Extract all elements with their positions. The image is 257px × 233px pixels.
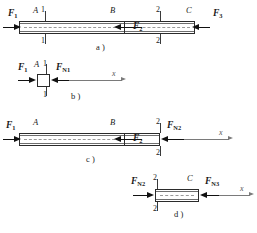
section-label-2-bottom-a: 2 — [156, 37, 160, 45]
caption-c: c ) — [86, 155, 95, 164]
point-label-B-a: B — [110, 6, 115, 15]
force-label-f3-a: F3 — [213, 9, 223, 19]
axis-label-x-d: x — [240, 185, 244, 193]
force-label-fn1-b: FN1 — [56, 63, 70, 73]
force-fn1-b-head — [51, 77, 58, 83]
caption-b: b ) — [71, 92, 80, 101]
force-fn2-c-head — [161, 136, 168, 142]
bar-c-centerline — [24, 139, 120, 140]
force-fn2-d-shaft — [133, 195, 148, 196]
force-label-f1-b: F1 — [18, 63, 28, 73]
force-fn3-d-head — [200, 192, 207, 198]
point-label-A-a: A — [33, 6, 38, 15]
cut-mark-1-bottom — [45, 34, 46, 44]
caption-d: d ) — [174, 210, 183, 219]
section-label-2-bottom-c: 2 — [156, 149, 160, 157]
section-label-1-top-b: 1 — [43, 60, 47, 68]
bar-a-centerline — [24, 27, 190, 28]
cut-mark-2-top-c — [160, 123, 161, 133]
bar-b — [37, 74, 50, 87]
force-label-f1-c: F1 — [6, 121, 16, 131]
panel-d: FN2 2 2 C FN3 x d ) — [0, 172, 257, 228]
point-label-A-b: A — [34, 60, 39, 69]
point-label-C-a: C — [186, 6, 192, 15]
cut-mark-2-bottom — [160, 34, 161, 44]
force-label-fn2-d: FN2 — [131, 177, 145, 187]
section-label-1-top-a: 1 — [41, 6, 45, 14]
cut-mark-2-top-d — [157, 179, 158, 189]
force-f2-a-head — [114, 24, 121, 30]
x-axis-d-shaft — [219, 195, 250, 196]
cut-mark-2-bottom-c — [160, 146, 161, 156]
x-axis-c-shaft — [184, 139, 229, 140]
force-f1-b-head — [29, 77, 36, 83]
force-label-fn3-d: FN3 — [205, 177, 219, 187]
force-label-fn2-c: FN2 — [167, 121, 181, 131]
panel-c: F1 A B F2 2 2 FN2 x c ) — [0, 112, 257, 164]
section-label-1-bottom-a: 1 — [41, 37, 45, 45]
point-label-C-d: C — [187, 174, 193, 183]
force-f2-c-head — [114, 136, 121, 142]
x-axis-b-shaft — [69, 80, 122, 81]
force-f3-a-head — [192, 24, 199, 30]
section-label-2-top-a: 2 — [156, 6, 160, 14]
cut-mark-2-top — [160, 11, 161, 21]
x-axis-c-head — [228, 136, 233, 140]
x-axis-b-head — [121, 77, 126, 81]
cut-mark-1-top — [45, 11, 46, 21]
bar-d-centerline — [160, 195, 194, 196]
caption-a: a ) — [96, 43, 105, 52]
mechanics-figure: F1 A 1 1 B F2 2 2 C F3 a ) F1 A 1 1 FN1 … — [0, 0, 257, 233]
panel-a: F1 A 1 1 B F2 2 2 C F3 a ) — [0, 0, 257, 52]
force-label-f2-a: F2 — [133, 22, 143, 32]
panel-b: F1 A 1 1 FN1 x b ) — [0, 58, 257, 106]
cut-mark-2-bottom-d — [157, 202, 158, 211]
force-f1-a-head — [14, 24, 21, 30]
section-label-1-bottom-b: 1 — [43, 91, 47, 99]
point-label-A-c: A — [33, 118, 38, 127]
point-label-B-c: B — [110, 118, 115, 127]
force-f1-c-head — [14, 136, 21, 142]
force-fn2-d-head — [147, 192, 154, 198]
axis-label-x-b: x — [112, 70, 116, 78]
section-label-2-bottom-d: 2 — [153, 205, 157, 213]
section-label-2-top-c: 2 — [156, 118, 160, 126]
axis-label-x-c: x — [219, 129, 223, 137]
force-label-f1-a: F1 — [8, 9, 18, 19]
force-label-f2-c: F2 — [133, 134, 143, 144]
section-label-2-top-d: 2 — [153, 174, 157, 182]
x-axis-d-head — [249, 192, 254, 196]
